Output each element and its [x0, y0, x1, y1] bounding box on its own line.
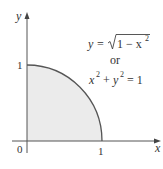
svg-text:2: 2	[145, 34, 149, 43]
origin-label: 0	[17, 143, 23, 155]
y-tick-label: 1	[17, 59, 23, 71]
y-axis-arrow-icon	[25, 12, 30, 19]
eq1-lhs: y =	[87, 37, 104, 51]
quarter-circle-diagram: y x 0 1 1 y = 1 − x 2 or x 2 + y 2 = 1	[0, 0, 163, 169]
equation-circle: x 2 + y 2 = 1	[88, 70, 143, 87]
svg-text:y: y	[112, 73, 119, 87]
svg-text:= 1: = 1	[124, 73, 143, 87]
eq1-root-content: 1 − x	[117, 37, 142, 51]
y-axis-label: y	[15, 9, 22, 23]
svg-text:1 − x: 1 − x	[117, 37, 142, 51]
equation-or: or	[110, 53, 120, 67]
svg-text:+: +	[100, 73, 113, 87]
x-axis-label: x	[154, 141, 161, 155]
svg-text:x: x	[88, 73, 95, 87]
eq1-exp: 2	[145, 34, 149, 43]
svg-text:y =: y =	[87, 37, 104, 51]
equation-sqrt: y = 1 − x 2	[87, 34, 150, 51]
x-tick-label: 1	[98, 145, 104, 157]
